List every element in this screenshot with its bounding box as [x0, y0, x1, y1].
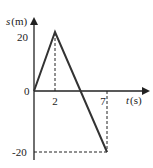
y-tick-neg20: -20 [12, 146, 27, 158]
position-line [34, 32, 107, 152]
x-axis-label: t(s) [126, 94, 142, 107]
x-tick-2: 2 [52, 95, 58, 107]
position-time-chart: s(m) t(s) 20 0 -20 2 7 [0, 0, 153, 168]
y-tick-0: 0 [24, 85, 30, 97]
x-tick-7: 7 [100, 95, 106, 107]
y-axis-label: s(m) [6, 15, 28, 28]
y-tick-20: 20 [17, 31, 29, 43]
